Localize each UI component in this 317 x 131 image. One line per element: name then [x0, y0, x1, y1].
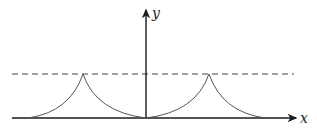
diagram-canvas: y x — [0, 0, 317, 131]
x-axis-label: x — [300, 110, 308, 126]
curve-arch-left — [12, 74, 146, 118]
y-axis-label: y — [151, 5, 161, 21]
curve-arch-right — [146, 74, 265, 118]
